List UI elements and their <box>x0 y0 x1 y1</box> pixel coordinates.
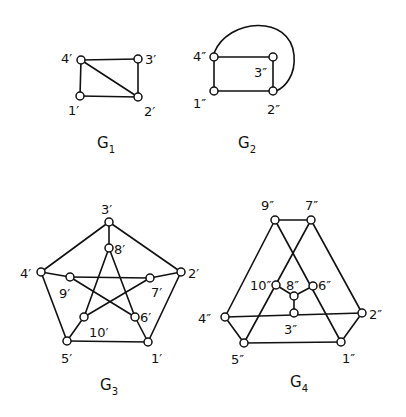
vertex-label: 3″ <box>254 65 267 80</box>
vertex-label: 6″ <box>318 278 331 293</box>
vertex-label: 2″ <box>369 307 382 322</box>
graph-title: G3 <box>100 376 118 397</box>
vertex-label: 5′ <box>61 351 72 366</box>
edge <box>109 248 135 317</box>
graph-figure: 1′2′3′4′G11″2″3″4″G21′2′3′4′5′6′7′8′9′10… <box>0 0 406 417</box>
vertex <box>177 268 185 276</box>
edge <box>67 341 148 342</box>
vertex-label: 4″ <box>198 311 211 326</box>
vertex <box>134 93 142 101</box>
vertex <box>76 92 84 100</box>
vertex <box>269 87 277 95</box>
vertex <box>290 309 298 317</box>
graph-g1: 1′2′3′4′G1 <box>61 51 156 155</box>
vertex <box>271 216 279 224</box>
edge <box>70 277 150 278</box>
vertex <box>146 274 154 282</box>
vertex-label: 4″ <box>193 49 206 64</box>
graph-g3: 1′2′3′4′5′6′7′8′9′10′G3 <box>20 202 199 397</box>
vertex-label: 9″ <box>261 198 274 213</box>
vertex <box>210 53 218 61</box>
edge <box>84 248 109 317</box>
vertex-label: 8′ <box>114 242 125 257</box>
vertex-label: 10″ <box>250 278 272 293</box>
vertex <box>358 309 366 317</box>
vertex-label: 1′ <box>151 351 162 366</box>
edge <box>341 313 362 342</box>
vertex-label: 9′ <box>59 286 70 301</box>
vertex-label: 1″ <box>342 351 355 366</box>
vertex-label: 3″ <box>284 322 297 337</box>
vertex <box>290 292 298 300</box>
graph-g2: 1″2″3″4″G2 <box>193 25 294 155</box>
vertex-label: 4′ <box>20 266 31 281</box>
vertex-label: 1′ <box>68 103 79 118</box>
edge <box>244 342 341 343</box>
edge <box>41 222 109 272</box>
edge <box>148 272 181 342</box>
vertex <box>134 55 142 63</box>
vertex <box>105 218 113 226</box>
vertex <box>77 56 85 64</box>
edge <box>70 277 135 317</box>
vertex <box>309 282 317 290</box>
vertex-label: 2″ <box>267 102 280 117</box>
edge <box>80 60 81 96</box>
vertex-label: 7′ <box>151 285 162 300</box>
graph-title: G2 <box>238 134 256 155</box>
vertex <box>240 339 248 347</box>
vertex <box>66 273 74 281</box>
vertex <box>131 313 139 321</box>
graph-title: G1 <box>97 134 115 155</box>
vertex-label: 3′ <box>101 202 112 217</box>
vertex-label: 10′ <box>89 325 109 340</box>
vertex-label: 8″ <box>286 278 299 293</box>
vertex <box>272 281 280 289</box>
edge <box>225 317 244 343</box>
edge <box>41 272 67 341</box>
graph-g4: 1″2″3″4″5″6″7″8″9″10″G4 <box>198 198 382 394</box>
graph-title: G4 <box>290 373 308 394</box>
graph-figure-svg: 1′2′3′4′G11″2″3″4″G21′2′3′4′5′6′7′8′9′10… <box>0 0 406 417</box>
vertex <box>307 216 315 224</box>
vertex-label: 7″ <box>305 198 318 213</box>
vertex <box>337 338 345 346</box>
vertex-label: 4′ <box>61 51 72 66</box>
vertex-label: 2′ <box>144 104 155 119</box>
edge <box>81 60 138 97</box>
vertex-label: 1″ <box>193 96 206 111</box>
arc-edge <box>214 25 294 91</box>
vertex <box>269 53 277 61</box>
vertex <box>37 268 45 276</box>
vertex <box>144 338 152 346</box>
vertex <box>210 87 218 95</box>
vertex <box>80 313 88 321</box>
vertex <box>221 313 229 321</box>
edge <box>81 59 138 60</box>
vertex-label: 5″ <box>231 352 244 367</box>
vertex-label: 2′ <box>188 266 199 281</box>
vertex-label: 3′ <box>145 52 156 67</box>
vertex <box>105 244 113 252</box>
edge <box>80 96 138 97</box>
edge <box>225 220 275 317</box>
vertex-label: 6′ <box>140 310 151 325</box>
vertex <box>63 337 71 345</box>
